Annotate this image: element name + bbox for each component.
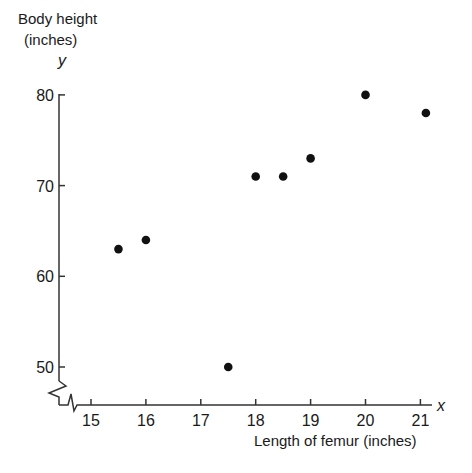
y-ticks: 50607080	[36, 87, 65, 376]
x-tick-label: 17	[192, 412, 210, 429]
x-axis-line	[59, 394, 432, 411]
x-tick-label: 16	[137, 412, 155, 429]
x-tick-label: 15	[82, 412, 100, 429]
data-point	[251, 172, 260, 181]
y-tick-label: 50	[36, 359, 54, 376]
data-point	[114, 245, 123, 254]
y-tick-label: 80	[36, 87, 54, 104]
data-point	[279, 172, 288, 181]
data-point	[361, 91, 370, 100]
x-tick-label: 18	[247, 412, 265, 429]
data-point	[224, 363, 233, 372]
data-point	[142, 236, 151, 245]
x-tick-label: 19	[302, 412, 320, 429]
x-ticks: 15161718192021	[82, 399, 429, 429]
x-tick-label: 20	[357, 412, 375, 429]
data-points	[114, 91, 430, 372]
scatter-plot: 50607080 15161718192021	[0, 0, 472, 473]
data-point	[306, 154, 315, 163]
data-point	[422, 109, 431, 118]
y-axis-break	[49, 381, 66, 405]
y-tick-label: 70	[36, 178, 54, 195]
y-tick-label: 60	[36, 268, 54, 285]
x-tick-label: 21	[412, 412, 430, 429]
axes	[49, 94, 432, 411]
